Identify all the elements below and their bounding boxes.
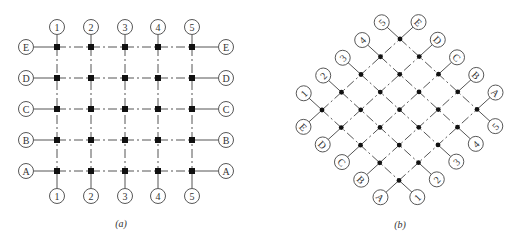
axis-label: 4 — [156, 22, 161, 33]
column-bubble-bottom: 4 — [151, 189, 166, 204]
axis-label: C — [23, 104, 30, 115]
axis-label: 2 — [89, 191, 94, 202]
grid-node — [358, 107, 363, 112]
grid-node — [339, 90, 344, 95]
grid-node — [122, 168, 128, 174]
axis-extension — [458, 127, 472, 140]
row-bubble-left: D — [19, 71, 34, 86]
grid-node — [378, 125, 383, 130]
grid-node — [455, 125, 460, 130]
grid-node — [398, 37, 403, 42]
axis-label: 1 — [55, 191, 60, 202]
axis-label: 1 — [55, 22, 60, 33]
letter-bubble-upper-right: D — [430, 32, 445, 47]
letter-bubble-upper-right: A — [488, 85, 503, 100]
axis-extension — [308, 97, 322, 110]
grid-node — [88, 137, 94, 143]
grid-node — [436, 143, 441, 148]
number-bubble-lower-right: 3 — [449, 154, 464, 169]
axis-label: B — [223, 135, 230, 146]
grid-node — [155, 106, 161, 112]
grid-node — [155, 75, 161, 81]
grid-node — [436, 107, 441, 112]
caption-a: (a) — [115, 218, 127, 230]
grid-node — [88, 75, 94, 81]
letter-bubble-lower-left: B — [354, 172, 369, 187]
grid-node — [54, 44, 60, 50]
axis-label: A — [22, 166, 30, 177]
grid-node — [397, 107, 402, 112]
number-bubble-upper-left: 3 — [335, 50, 350, 65]
number-bubble-lower-right: 5 — [488, 119, 503, 134]
letter-bubble-lower-left: A — [373, 190, 388, 205]
axis-label: A — [222, 166, 230, 177]
letter-bubble-upper-right: B — [469, 67, 484, 82]
row-bubble-left: A — [19, 164, 34, 179]
grid-node — [397, 143, 402, 148]
grid-node — [189, 137, 195, 143]
grid-node — [339, 125, 344, 130]
axis-extension — [366, 163, 380, 176]
axis-label: 2 — [89, 22, 94, 33]
row-bubble-left: B — [19, 133, 34, 148]
letter-bubble-lower-left: C — [334, 155, 349, 170]
grid-node — [416, 125, 421, 130]
number-bubble-upper-left: 5 — [374, 15, 389, 30]
grid-node — [320, 108, 325, 113]
caption-b: (b) — [394, 219, 406, 231]
axis-extension — [347, 62, 361, 75]
axis-label: 3 — [123, 22, 128, 33]
row-bubble-right: A — [219, 164, 234, 179]
axis-extension — [385, 180, 399, 193]
row-bubble-left: C — [19, 102, 34, 117]
axis-label: 5 — [190, 22, 195, 33]
grid-node — [54, 75, 60, 81]
grid-node — [122, 106, 128, 112]
grid-node — [155, 137, 161, 143]
number-bubble-lower-right: 4 — [468, 136, 483, 151]
column-bubble-top: 2 — [84, 20, 99, 35]
grid-node — [475, 107, 480, 112]
grid-node — [54, 168, 60, 174]
axis-extension — [439, 61, 453, 74]
axis-extension — [477, 109, 491, 122]
grid-node — [122, 75, 128, 81]
grid-node — [358, 143, 363, 148]
grid-node — [189, 44, 195, 50]
grid-node — [377, 160, 382, 165]
grid-node — [155, 44, 161, 50]
axis-label: D — [222, 73, 229, 84]
axis-extension — [386, 26, 400, 39]
axis-label: 4 — [156, 191, 161, 202]
column-bubble-top: 1 — [50, 20, 65, 35]
grid-node — [359, 72, 364, 77]
axis-label: 5 — [190, 191, 195, 202]
number-bubble-lower-right: 1 — [410, 190, 425, 205]
grid-node — [417, 90, 422, 95]
axis-extension — [419, 163, 433, 176]
grid-node — [54, 106, 60, 112]
axis-label: 3 — [123, 191, 128, 202]
grid-node — [122, 137, 128, 143]
grid-node — [88, 168, 94, 174]
grid-node — [417, 54, 422, 59]
column-bubble-bottom: 2 — [84, 189, 99, 204]
axis-extension — [367, 44, 381, 57]
column-bubble-bottom: 1 — [50, 189, 65, 204]
grid-node — [397, 72, 402, 77]
grid-node — [397, 178, 402, 183]
number-bubble-upper-left: 2 — [316, 68, 331, 83]
letter-bubble-upper-right: E — [411, 15, 426, 30]
grid-node — [155, 168, 161, 174]
number-bubble-upper-left: 4 — [355, 33, 370, 48]
axis-extension — [458, 79, 472, 92]
number-bubble-upper-left: 1 — [296, 86, 311, 101]
column-bubble-top: 3 — [118, 20, 133, 35]
grid-node — [455, 89, 460, 94]
grid-node — [378, 90, 383, 95]
axis-extension — [477, 97, 491, 110]
column-bubble-top: 4 — [151, 20, 166, 35]
axis-extension — [438, 145, 452, 158]
axis-label: C — [223, 104, 230, 115]
axis-label: D — [22, 73, 29, 84]
